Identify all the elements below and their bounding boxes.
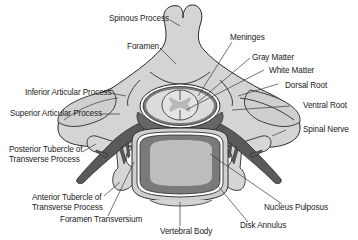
label-spinous-process: Spinous Process bbox=[109, 14, 169, 24]
label-meninges: Meninges bbox=[230, 33, 265, 43]
label-anterior-tubercle: Anterior Tubercle of Transverse Process bbox=[32, 193, 103, 212]
label-dorsal-root: Dorsal Root bbox=[285, 81, 327, 91]
label-vertebral-body: Vertebral Body bbox=[160, 227, 212, 237]
label-inferior-articular-process: Inferior Articular Process bbox=[25, 88, 112, 98]
label-posterior-tubercle: Posterior Tubercle of Transverse Process bbox=[9, 145, 82, 164]
nucleus-pulposus bbox=[150, 140, 212, 186]
label-disk-annulus: Disk Annulus bbox=[240, 221, 286, 231]
label-foramen-transversium: Foramen Transversium bbox=[60, 215, 142, 225]
label-gray-matter: Gray Matter bbox=[252, 53, 294, 63]
label-spinal-nerve: Spinal Nerve bbox=[303, 125, 349, 135]
label-foramen: Foramen bbox=[127, 42, 159, 52]
label-nucleus-pulposus: Nucleus Pulposus bbox=[264, 203, 328, 213]
label-white-matter: White Matter bbox=[269, 66, 314, 76]
label-ventral-root: Ventral Root bbox=[303, 101, 347, 111]
label-superior-articular-process: Superior Articular Process bbox=[10, 109, 102, 119]
